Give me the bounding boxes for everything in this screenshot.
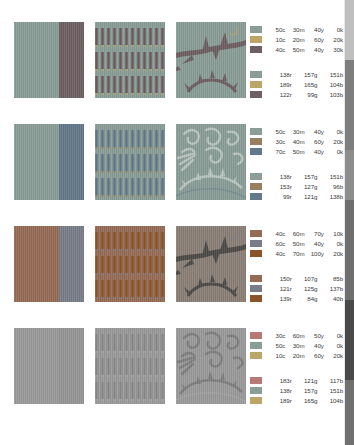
rgb-values: 139r84g40b [268, 294, 345, 303]
color-swatch [250, 193, 262, 200]
magenta-value: 30m [287, 25, 306, 34]
blue-value: 40b [319, 294, 345, 303]
red-value: 138r [268, 386, 294, 395]
color-swatch [250, 230, 262, 237]
black-value: 20k [326, 351, 345, 360]
bar-band [95, 154, 165, 171]
rgb-legend: 138r157g151b153r127g96b99r121g138b [250, 172, 345, 202]
yellow-value: 100y [307, 249, 326, 258]
bar-band-accent [95, 375, 165, 377]
cyan-value: 10c [268, 35, 287, 44]
bar-band [95, 52, 165, 69]
cmyk-values: 40c70m100y20k [268, 249, 345, 258]
color-swatch [250, 173, 262, 180]
bar-band [95, 178, 165, 195]
cmyk-values: 10c20m60y20k [268, 351, 345, 360]
rgb-values: 138r157g151b [268, 172, 345, 181]
blue-value: 117b [319, 376, 345, 385]
rgb-legend-row: 99r121g138b [250, 192, 345, 201]
bar-band-accent [95, 195, 165, 197]
swatch-row: 50c30m40y0k30c40m60y20k70c50m40y0k138r15… [0, 124, 345, 226]
black-value: 0k [326, 25, 345, 34]
flat-color-split-panel [14, 124, 84, 200]
flourish-artwork-panel [176, 124, 246, 200]
red-value: 99r [268, 192, 294, 201]
cmyk-legend-row: 40c60m70y10k [250, 229, 345, 238]
blue-value: 85b [319, 274, 345, 283]
split-left-field [14, 22, 59, 98]
rgb-legend-row: 189r165g104b [250, 80, 345, 89]
rgb-values: 122r99g103b [268, 90, 345, 99]
rgb-legend-row: 138r157g151b [250, 386, 345, 395]
bar-band [95, 232, 165, 249]
blue-value: 96b [319, 182, 345, 191]
blue-value: 151b [319, 172, 345, 181]
swatch-row: 40c60m70y10k60c50m40y0k40c70m100y20k150r… [0, 226, 345, 328]
artwork-canvas [176, 22, 246, 98]
bar-band-accent [95, 273, 165, 275]
cyan-value: 40c [268, 249, 287, 258]
green-value: 84g [294, 294, 320, 303]
artwork-canvas [176, 226, 246, 302]
green-value: 125g [294, 284, 320, 293]
bar-band-accent [95, 93, 165, 95]
yellow-value: 60y [307, 137, 326, 146]
cyan-value: 50c [268, 127, 287, 136]
rgb-legend: 183r121g117b138r157g151b189r165g104b [250, 376, 345, 406]
color-swatch [250, 295, 262, 302]
red-value: 138r [268, 172, 294, 181]
yellow-value: 40y [307, 239, 326, 248]
cmyk-legend: 50c30m40y0k30c40m60y20k70c50m40y0k [250, 127, 345, 157]
color-swatch [250, 36, 262, 43]
rgb-values: 189r165g104b [268, 396, 345, 405]
rgb-values: 153r127g96b [268, 182, 345, 191]
split-right-field [59, 226, 84, 302]
magenta-value: 50m [287, 239, 306, 248]
vertical-bar-pattern-panel [95, 22, 165, 98]
color-swatch [250, 183, 262, 190]
rgb-values: 99r121g138b [268, 192, 345, 201]
cmyk-legend-row: 60c50m40y0k [250, 239, 345, 248]
bar-band-accent [95, 399, 165, 401]
rgb-legend-row: 138r157g151b [250, 172, 345, 181]
yellow-value: 50y [307, 331, 326, 340]
cmyk-values: 70c50m40y0k [268, 147, 345, 156]
bar-band-accent [95, 147, 165, 149]
red-value: 138r [268, 70, 294, 79]
thorn-branch-artwork-panel [176, 22, 246, 98]
flat-color-split-panel [14, 226, 84, 302]
black-value: 20k [326, 137, 345, 146]
magenta-value: 30m [287, 341, 306, 350]
red-value: 189r [268, 396, 294, 405]
cmyk-values: 50c30m40y0k [268, 25, 345, 34]
cmyk-values: 40c60m70y10k [268, 229, 345, 238]
rgb-legend: 150r107g85b121r125g137b139r84g40b [250, 274, 345, 304]
bar-band [95, 358, 165, 375]
magenta-value: 60m [287, 331, 306, 340]
color-swatch [250, 387, 262, 394]
black-value: 20k [326, 35, 345, 44]
cmyk-values: 30c40m60y20k [268, 137, 345, 146]
blue-value: 151b [319, 70, 345, 79]
rgb-legend-row: 183r121g117b [250, 376, 345, 385]
bar-band-accent [95, 45, 165, 47]
thorn-branch-illustration [176, 226, 246, 302]
magenta-value: 50m [287, 147, 306, 156]
color-swatch [250, 46, 262, 53]
cmyk-legend-row: 40c50m40y30k [250, 45, 345, 54]
color-swatch [250, 81, 262, 88]
cmyk-values: 60c50m40y0k [268, 239, 345, 248]
bar-band-accent [95, 69, 165, 71]
color-swatch [250, 128, 262, 135]
yellow-value: 40y [307, 45, 326, 54]
swatch-row: 30c60m50y0k50c30m40y0k10c20m60y20k183r12… [0, 328, 345, 430]
yellow-value: 40y [307, 147, 326, 156]
red-value: 189r [268, 80, 294, 89]
green-value: 127g [294, 182, 320, 191]
cmyk-legend-row: 50c30m40y0k [250, 127, 345, 136]
thorn-branch-artwork-panel [176, 226, 246, 302]
color-swatch [250, 332, 262, 339]
rgb-values: 138r157g151b [268, 70, 345, 79]
split-left-field [14, 124, 59, 200]
rgb-legend-row: 153r127g96b [250, 182, 345, 191]
